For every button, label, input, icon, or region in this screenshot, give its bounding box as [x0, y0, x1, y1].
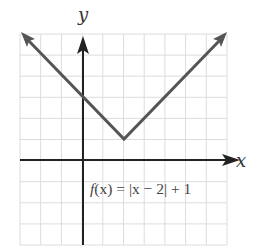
y-axis-label: y [77, 4, 89, 25]
x-axis-label: x [236, 150, 246, 171]
equation-rest: (x) = |x − 2| + 1 [94, 180, 191, 198]
function-equation: f(x) = |x − 2| + 1 [90, 180, 191, 198]
graph: y x f(x) = |x − 2| + 1 [0, 0, 255, 252]
